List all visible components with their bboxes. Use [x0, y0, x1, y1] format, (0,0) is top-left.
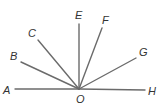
ray-og	[79, 58, 136, 89]
ray-ob	[21, 62, 79, 89]
ray-oc	[38, 40, 79, 89]
point-label-b: B	[10, 50, 17, 62]
ray-oh	[79, 89, 145, 90]
point-label-g: G	[139, 46, 148, 58]
ray-of	[79, 28, 102, 89]
point-label-a: A	[2, 84, 10, 96]
point-label-h: H	[148, 85, 156, 97]
angle-rays-diagram: ABCEFGHO	[0, 0, 161, 110]
vertex-label-o: O	[76, 93, 85, 105]
point-label-f: F	[102, 14, 110, 26]
point-label-c: C	[28, 27, 36, 39]
point-label-e: E	[75, 9, 83, 21]
